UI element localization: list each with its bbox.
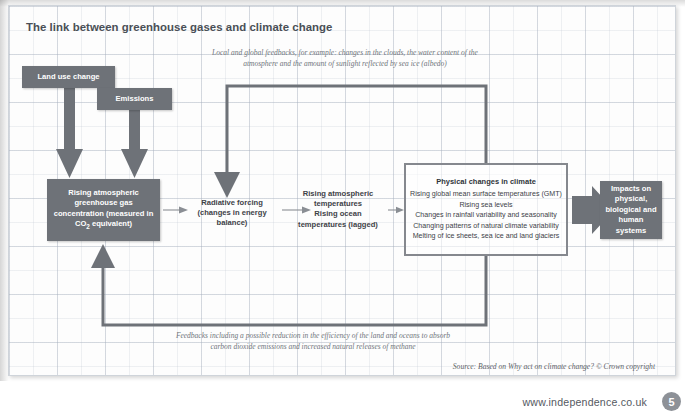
source-credit: Source: Based on Why act on climate chan… bbox=[380, 362, 655, 371]
physical-changes-item: Rising global mean surface temperatures … bbox=[410, 189, 562, 199]
physical-changes-item: Changing patterns of natural climate var… bbox=[413, 221, 559, 231]
node-physical-changes: Physical changes in climate Rising globa… bbox=[404, 163, 568, 256]
node-emissions: Emissions bbox=[97, 88, 172, 110]
website-url: www.independence.co.uk bbox=[522, 396, 647, 408]
physical-changes-heading: Physical changes in climate bbox=[436, 177, 536, 186]
node-impacts: Impacts onphysical,biological andhuman s… bbox=[600, 181, 662, 239]
physical-changes-item: Changes in rainfall variability and seas… bbox=[415, 210, 557, 220]
page-title: The link between greenhouse gases and cl… bbox=[26, 21, 332, 33]
physical-changes-item: Rising sea levels bbox=[459, 200, 512, 210]
page-number-badge: 5 bbox=[662, 392, 681, 411]
node-ghg-concentration: Rising atmosphericgreenhouse gasconcentr… bbox=[47, 179, 160, 241]
annotation-bottom-feedbacks: Feedbacks including a possible reduction… bbox=[168, 331, 458, 352]
node-rising-temperatures: Rising atmospherictemperaturesRising oce… bbox=[290, 189, 386, 230]
physical-changes-item: Melting of ice sheets, sea ice and land … bbox=[413, 231, 560, 241]
node-radiative-forcing: Radiative forcing(changes in energybalan… bbox=[186, 198, 278, 229]
node-land-use-change: Land use change bbox=[22, 66, 115, 88]
annotation-top-feedbacks: Local and global feedbacks, for example:… bbox=[200, 48, 490, 69]
